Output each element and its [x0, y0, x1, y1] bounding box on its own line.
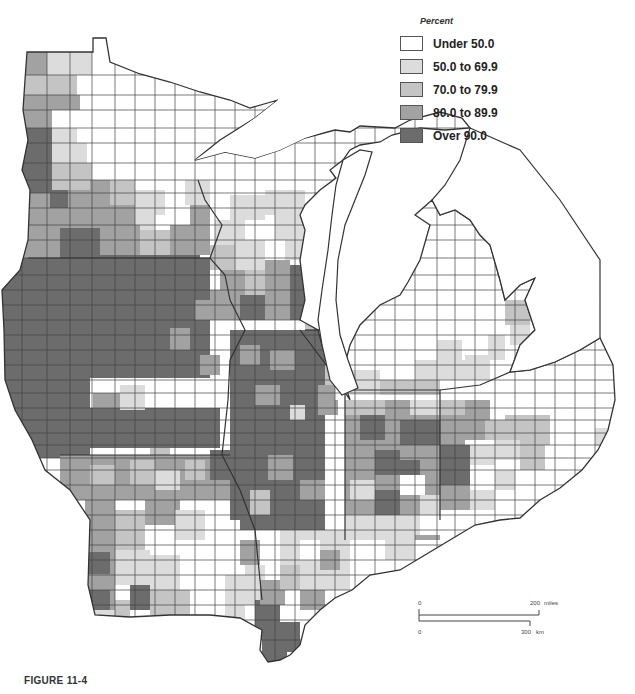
- scale-km-start: 0: [418, 629, 421, 635]
- legend-swatch: [400, 36, 423, 51]
- legend-swatch: [400, 105, 423, 120]
- legend-swatch: [400, 128, 423, 143]
- scale-bar: 0 200 miles 0 300 km: [418, 600, 548, 640]
- legend-item-50-69: 50.0 to 69.9: [400, 55, 560, 78]
- legend-label: 80.0 to 89.9: [433, 106, 498, 120]
- map-legend: Percent Under 50.0 50.0 to 69.9 70.0 to …: [400, 16, 560, 147]
- legend-item-under-50: Under 50.0: [400, 32, 560, 55]
- legend-swatch: [400, 82, 423, 97]
- legend-item-over-90: Over 90.0: [400, 124, 560, 147]
- legend-label: Over 90.0: [433, 129, 487, 143]
- legend-item-70-79: 70.0 to 79.9: [400, 78, 560, 101]
- legend-label: Under 50.0: [433, 37, 494, 51]
- scale-km-end: 300: [521, 629, 531, 635]
- figure-caption: FIGURE 11-4: [24, 675, 87, 686]
- legend-item-80-89: 80.0 to 89.9: [400, 101, 560, 124]
- legend-label: 70.0 to 79.9: [433, 83, 498, 97]
- legend-label: 50.0 to 69.9: [433, 60, 498, 74]
- legend-swatch: [400, 59, 423, 74]
- scale-km-unit: km: [536, 629, 544, 635]
- legend-title: Percent: [420, 16, 560, 26]
